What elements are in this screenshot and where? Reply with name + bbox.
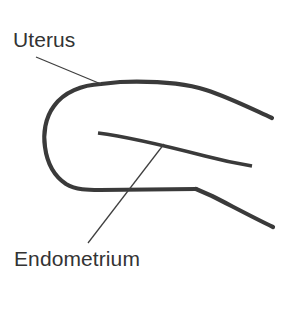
uterus-inferior-wall-path [196, 189, 273, 227]
label-endometrium: Endometrium [14, 248, 140, 269]
diagram-canvas: Uterus Endometrium [0, 0, 296, 309]
uterus-outer-wall-path [44, 82, 272, 190]
uterus-leader-line [36, 57, 101, 84]
endometrium-leader-line [88, 144, 164, 243]
endometrium-lining-path [98, 133, 252, 166]
label-uterus: Uterus [13, 29, 75, 50]
